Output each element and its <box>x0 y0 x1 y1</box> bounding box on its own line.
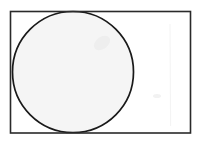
geometry-drawing <box>0 0 198 144</box>
inscribed-circle <box>13 12 134 133</box>
figure-canvas <box>0 0 198 144</box>
scan-line-right-panel-icon <box>170 24 171 126</box>
scan-speck-right-panel-icon <box>153 94 161 98</box>
